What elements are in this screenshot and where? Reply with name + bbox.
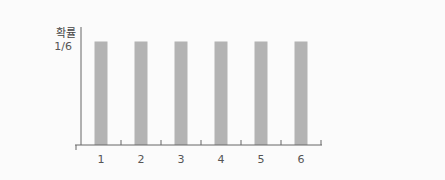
bar-5 (255, 41, 268, 145)
y-axis-label: 확률 (56, 27, 76, 40)
x-tick-label: 4 (218, 153, 225, 166)
x-tick-label: 2 (138, 153, 145, 166)
x-tick-label: 3 (178, 153, 185, 166)
bar-chart: 123456 1/6 확률 (0, 0, 445, 180)
y-tick-label: 1/6 (54, 40, 72, 53)
x-tick-label: 1 (98, 153, 105, 166)
bar-3 (175, 41, 188, 145)
bars-group (95, 41, 308, 145)
bar-2 (135, 41, 148, 145)
bar-1 (95, 41, 108, 145)
bar-4 (215, 41, 228, 145)
y-tick-labels-group: 1/6 (54, 40, 72, 53)
x-tick-label: 6 (298, 153, 305, 166)
bar-6 (295, 41, 308, 145)
x-tick-labels-group: 123456 (98, 153, 305, 166)
x-tick-label: 5 (258, 153, 265, 166)
